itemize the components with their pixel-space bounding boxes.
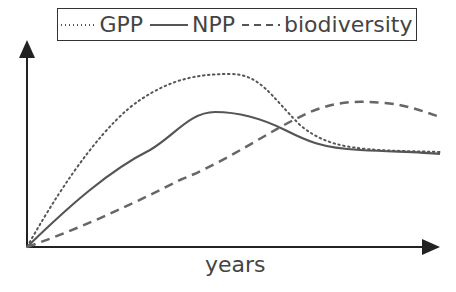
legend-item-gpp: GPP <box>61 12 143 37</box>
legend-item-npp: NPP <box>150 12 235 37</box>
legend-item-biodiversity: biodiversity <box>242 12 412 37</box>
npp-line <box>27 112 440 247</box>
legend-label: GPP <box>99 12 143 37</box>
dashed-line-icon <box>242 22 280 28</box>
legend-label: biodiversity <box>284 12 412 37</box>
gpp-line <box>27 74 440 247</box>
x-axis-label: years <box>205 252 266 277</box>
solid-line-icon <box>150 22 188 28</box>
chart-canvas <box>0 0 456 292</box>
biodiversity-line <box>27 102 440 247</box>
dotted-line-icon <box>61 22 95 28</box>
legend: GPP NPP biodiversity <box>57 8 417 41</box>
legend-label: NPP <box>192 12 235 37</box>
